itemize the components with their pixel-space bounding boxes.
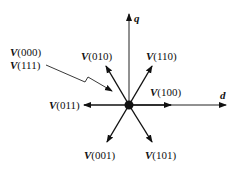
vector-v001 <box>107 105 129 142</box>
label-v001: V(001) <box>84 149 116 162</box>
label-v110: V(110) <box>146 50 177 63</box>
vector-v010 <box>106 66 129 105</box>
label-v111: V(111) <box>10 59 41 72</box>
label-v010: V(010) <box>81 50 113 63</box>
label-v000: V(000) <box>10 46 42 59</box>
origin-dot <box>125 101 134 110</box>
label-v101: V(101) <box>145 149 177 162</box>
space-vector-diagram: q d V(100) V(110) V(010) V(011) V(001) V… <box>0 0 236 174</box>
vector-v101 <box>129 105 152 142</box>
label-v011: V(011) <box>49 99 80 112</box>
d-axis-label: d <box>220 89 226 101</box>
zero-vector-pointer <box>46 65 112 91</box>
q-axis-label: q <box>134 12 140 24</box>
vector-v110 <box>129 66 152 105</box>
label-v100: V(100) <box>150 86 182 99</box>
